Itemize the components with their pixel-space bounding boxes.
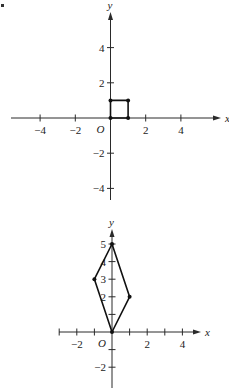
origin-label: O (98, 337, 106, 349)
vertex-dot (110, 242, 114, 246)
y-tick-label: −2 (94, 361, 106, 373)
x-axis-arrow-icon (193, 330, 201, 335)
plot-parallelogram: xyO−224−22345 (0, 0, 229, 392)
x-axis-label: x (204, 326, 210, 338)
y-axis-arrow-icon (110, 229, 115, 237)
y-axis-label: y (108, 216, 114, 228)
x-tick-label: 4 (180, 338, 186, 350)
y-tick-label: 3 (101, 273, 107, 285)
x-tick-label: −2 (71, 338, 83, 350)
y-tick-label: 5 (101, 238, 107, 250)
vertex-dot (128, 295, 132, 299)
x-tick-label: 2 (144, 338, 150, 350)
vertex-dot (92, 277, 96, 281)
vertex-dot (110, 330, 114, 334)
